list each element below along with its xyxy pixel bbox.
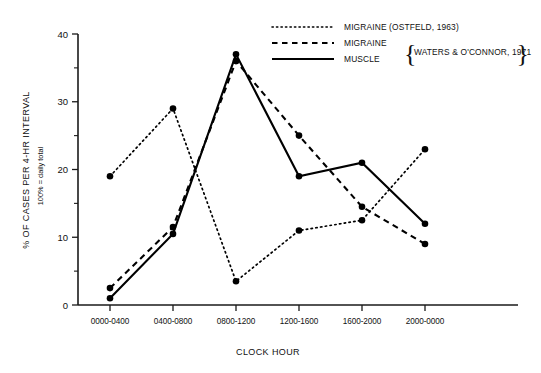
y-axis-subtitle: 100% = daily total [36,146,45,205]
chart-figure: 010203040 0000-04000400-08000800-1200120… [0,0,541,373]
y-axis-title: % OF CASES PER 4-HR INTERVAL [21,91,31,248]
data-point [296,227,303,234]
y-ticklabel: 10 [57,232,68,243]
data-point [359,217,366,224]
data-point [107,285,114,292]
y-ticklabel: 0 [63,300,68,311]
y-ticklabel: 20 [57,164,68,175]
data-point [170,231,177,238]
data-point [296,132,303,139]
legend-group-label: WATERS & O'CONNOR, 1971 [414,47,531,57]
data-point [107,173,114,180]
legend-brace-right: } [517,39,529,68]
x-ticklabel: 0400-0800 [154,317,193,326]
data-point [296,173,303,180]
legend-label-2: MUSCLE [344,54,380,64]
x-ticklabel: 1600-2000 [343,317,382,326]
data-point [359,204,366,211]
x-axis-title: CLOCK HOUR [236,347,300,357]
x-ticklabel: 2000-0000 [406,317,445,326]
legend-label-0: MIGRAINE (OSTFELD, 1963) [344,22,459,32]
data-point [170,105,177,112]
chart-svg: 010203040 0000-04000400-08000800-1200120… [0,0,541,373]
data-point [422,220,429,227]
data-point [422,241,429,248]
y-ticklabel: 30 [57,96,68,107]
data-point [422,146,429,153]
data-point [233,278,240,285]
x-ticklabel: 0000-0400 [91,317,130,326]
y-ticklabel: 40 [57,29,68,40]
data-point [359,159,366,166]
data-point [107,295,114,302]
x-ticklabel: 0800-1200 [217,317,256,326]
data-point [233,51,240,58]
x-ticklabel: 1200-1600 [280,317,319,326]
legend-label-1: MIGRAINE [344,38,387,48]
